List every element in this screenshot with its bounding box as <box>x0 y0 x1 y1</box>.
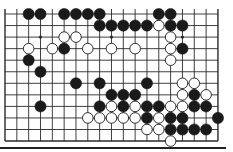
white-stone[interactable] <box>189 78 200 89</box>
black-stone[interactable] <box>165 8 176 19</box>
black-stone[interactable] <box>94 101 105 112</box>
black-stone[interactable] <box>177 43 188 54</box>
black-stone[interactable] <box>130 89 141 100</box>
white-stone[interactable] <box>201 90 212 101</box>
black-stone[interactable] <box>141 20 152 31</box>
black-stone[interactable] <box>177 124 188 135</box>
black-stone[interactable] <box>94 78 105 89</box>
black-stone[interactable] <box>35 101 46 112</box>
star-point <box>181 36 184 39</box>
white-stone[interactable] <box>83 113 94 124</box>
black-stone[interactable] <box>212 112 223 123</box>
white-stone[interactable] <box>165 101 176 112</box>
black-stone[interactable] <box>141 112 152 123</box>
black-stone[interactable] <box>94 8 105 19</box>
black-stone[interactable] <box>118 101 129 112</box>
black-stone[interactable] <box>23 55 34 66</box>
black-stone[interactable] <box>35 8 46 19</box>
white-stone[interactable] <box>177 101 188 112</box>
black-stone[interactable] <box>59 8 70 19</box>
black-stone[interactable] <box>35 66 46 77</box>
white-stone[interactable] <box>59 32 70 43</box>
white-stone[interactable] <box>94 113 105 124</box>
white-stone[interactable] <box>165 32 176 43</box>
white-stone[interactable] <box>106 101 117 112</box>
white-stone[interactable] <box>153 124 164 135</box>
black-stone[interactable] <box>82 8 93 19</box>
white-stone[interactable] <box>83 43 94 54</box>
white-stone[interactable] <box>47 43 58 54</box>
white-stone[interactable] <box>142 124 153 135</box>
white-stone[interactable] <box>130 113 141 124</box>
black-stone[interactable] <box>165 20 176 31</box>
white-stone[interactable] <box>23 43 34 54</box>
black-stone[interactable] <box>189 101 200 112</box>
black-stone[interactable] <box>189 89 200 100</box>
black-stone[interactable] <box>165 124 176 135</box>
white-stone[interactable] <box>118 113 129 124</box>
black-stone[interactable] <box>141 101 152 112</box>
go-board[interactable] <box>0 0 233 152</box>
black-stone[interactable] <box>177 20 188 31</box>
black-stone[interactable] <box>165 112 176 123</box>
white-stone[interactable] <box>165 136 176 147</box>
star-point <box>39 36 42 39</box>
black-stone[interactable] <box>23 8 34 19</box>
black-stone[interactable] <box>177 112 188 123</box>
black-stone[interactable] <box>118 20 129 31</box>
black-stone[interactable] <box>106 20 117 31</box>
white-stone[interactable] <box>130 43 141 54</box>
black-stone[interactable] <box>201 124 212 135</box>
white-stone[interactable] <box>153 20 164 31</box>
white-stone[interactable] <box>71 32 82 43</box>
black-stone[interactable] <box>189 124 200 135</box>
black-stone[interactable] <box>59 43 70 54</box>
black-stone[interactable] <box>70 8 81 19</box>
white-stone[interactable] <box>106 113 117 124</box>
black-stone[interactable] <box>106 89 117 100</box>
black-stone[interactable] <box>153 101 164 112</box>
black-stone[interactable] <box>201 101 212 112</box>
white-stone[interactable] <box>177 90 188 101</box>
white-stone[interactable] <box>165 55 176 66</box>
white-stone[interactable] <box>177 78 188 89</box>
black-stone[interactable] <box>141 78 152 89</box>
black-stone[interactable] <box>153 8 164 19</box>
star-point <box>110 36 113 39</box>
bottom-rule <box>0 147 226 149</box>
white-stone[interactable] <box>165 43 176 54</box>
white-stone[interactable] <box>106 43 117 54</box>
black-stone[interactable] <box>130 20 141 31</box>
black-stone[interactable] <box>70 78 81 89</box>
black-stone[interactable] <box>94 20 105 31</box>
white-stone[interactable] <box>153 113 164 124</box>
black-stone[interactable] <box>118 89 129 100</box>
white-stone[interactable] <box>130 101 141 112</box>
